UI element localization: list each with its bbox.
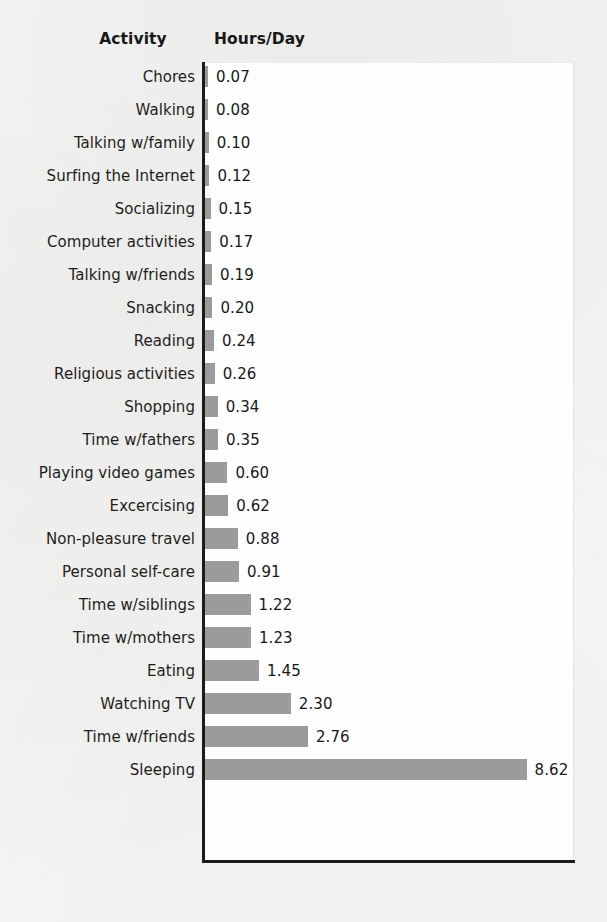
bar-value-label: 0.35: [226, 431, 260, 449]
header-activity: Activity: [58, 30, 208, 48]
bar-value-label: 8.62: [535, 761, 569, 779]
bar-value-label: 2.76: [316, 728, 350, 746]
bar-row: Playing video games0.60: [0, 458, 607, 491]
bar: [205, 264, 212, 285]
category-label: Watching TV: [100, 695, 195, 713]
category-label: Computer activities: [47, 233, 195, 251]
header-hours-per-day: Hours/Day: [214, 30, 305, 48]
bar-value-label: 0.19: [220, 266, 254, 284]
bar-row: Eating1.45: [0, 656, 607, 689]
bar-row: Reading0.24: [0, 326, 607, 359]
bar-row: Talking w/friends0.19: [0, 260, 607, 293]
bar: [205, 396, 218, 417]
category-label: Surfing the Internet: [47, 167, 195, 185]
bar: [205, 594, 251, 615]
bar-row: Excercising0.62: [0, 491, 607, 524]
bar-row: Time w/siblings1.22: [0, 590, 607, 623]
bar-value-label: 0.10: [217, 134, 251, 152]
bar-value-label: 0.15: [219, 200, 253, 218]
category-label: Personal self-care: [62, 563, 195, 581]
category-label: Snacking: [126, 299, 195, 317]
bar-value-label: 0.62: [236, 497, 270, 515]
bar-row: Computer activities0.17: [0, 227, 607, 260]
category-label: Religious activities: [54, 365, 195, 383]
bar: [205, 330, 214, 351]
bar-value-label: 0.20: [220, 299, 254, 317]
bar: [205, 495, 228, 516]
bar: [205, 462, 227, 483]
bar-value-label: 0.60: [235, 464, 269, 482]
bar: [205, 297, 212, 318]
category-label: Time w/friends: [84, 728, 195, 746]
bar: [205, 231, 211, 252]
bar-row: Surfing the Internet0.12: [0, 161, 607, 194]
bar-value-label: 0.88: [246, 530, 280, 548]
bar-row: Socializing0.15: [0, 194, 607, 227]
bar-row: Snacking0.20: [0, 293, 607, 326]
bar-row: Time w/friends2.76: [0, 722, 607, 755]
category-label: Eating: [147, 662, 195, 680]
bar: [205, 660, 259, 681]
bar-rows: Chores0.07Walking0.08Talking w/family0.1…: [0, 62, 607, 788]
bar: [205, 627, 251, 648]
column-headers: Activity Hours/Day: [0, 30, 607, 52]
bar-row: Non-pleasure travel0.88: [0, 524, 607, 557]
category-label: Playing video games: [39, 464, 195, 482]
bar-value-label: 2.30: [299, 695, 333, 713]
bar-value-label: 0.26: [223, 365, 257, 383]
bar: [205, 363, 215, 384]
category-label: Walking: [136, 101, 195, 119]
bar-value-label: 0.12: [217, 167, 251, 185]
bar-row: Shopping0.34: [0, 392, 607, 425]
bar-value-label: 1.22: [259, 596, 293, 614]
bar: [205, 528, 238, 549]
bar: [205, 429, 218, 450]
category-label: Talking w/family: [74, 134, 195, 152]
bar-row: Time w/fathers0.35: [0, 425, 607, 458]
bar-row: Personal self-care0.91: [0, 557, 607, 590]
category-label: Talking w/friends: [68, 266, 195, 284]
bar: [205, 198, 211, 219]
x-axis-line: [202, 860, 575, 863]
bar: [205, 693, 291, 714]
category-label: Chores: [143, 68, 195, 86]
bar-row: Chores0.07: [0, 62, 607, 95]
page-surface: Activity Hours/Day Chores0.07Walking0.08…: [0, 0, 607, 922]
category-label: Time w/mothers: [73, 629, 195, 647]
category-label: Socializing: [115, 200, 195, 218]
bar-value-label: 1.23: [259, 629, 293, 647]
bar: [205, 66, 208, 87]
category-label: Shopping: [124, 398, 195, 416]
bar-row: Religious activities0.26: [0, 359, 607, 392]
bar-value-label: 0.91: [247, 563, 281, 581]
category-label: Time w/fathers: [82, 431, 195, 449]
bar: [205, 99, 208, 120]
bar-value-label: 1.45: [267, 662, 301, 680]
category-label: Sleeping: [130, 761, 195, 779]
bar: [205, 726, 308, 747]
category-label: Time w/siblings: [79, 596, 195, 614]
bar-row: Time w/mothers1.23: [0, 623, 607, 656]
bar-value-label: 0.07: [216, 68, 250, 86]
bar: [205, 165, 209, 186]
bar-row: Sleeping8.62: [0, 755, 607, 788]
bar-value-label: 0.34: [226, 398, 260, 416]
bar-value-label: 0.08: [216, 101, 250, 119]
bar: [205, 759, 527, 780]
bar-row: Talking w/family0.10: [0, 128, 607, 161]
category-label: Reading: [134, 332, 195, 350]
category-label: Non-pleasure travel: [46, 530, 195, 548]
bar-row: Walking0.08: [0, 95, 607, 128]
bar: [205, 132, 209, 153]
bar-value-label: 0.17: [219, 233, 253, 251]
bar: [205, 561, 239, 582]
bar-row: Watching TV2.30: [0, 689, 607, 722]
category-label: Excercising: [110, 497, 195, 515]
bar-value-label: 0.24: [222, 332, 256, 350]
